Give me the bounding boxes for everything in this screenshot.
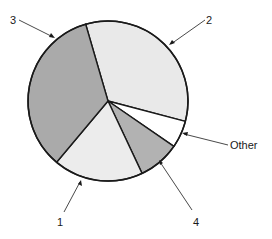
leader-line-2 [171, 20, 205, 44]
arrowhead-other [182, 132, 188, 136]
label-slice-3: 3 [10, 14, 16, 26]
pie-slices [28, 21, 188, 181]
label-slice-2: 2 [206, 14, 212, 26]
label-slice-1: 1 [57, 216, 63, 228]
arrowhead-3 [49, 33, 55, 38]
leader-line-3 [19, 20, 53, 37]
pie-chart: 3 2 Other 4 1 [0, 0, 272, 239]
label-slice-other: Other [230, 139, 258, 151]
label-slice-4: 4 [193, 216, 199, 228]
arrowhead-2 [169, 40, 175, 45]
leader-line-1 [64, 182, 80, 212]
leader-line-4 [160, 162, 192, 210]
leader-line-other [184, 134, 228, 145]
